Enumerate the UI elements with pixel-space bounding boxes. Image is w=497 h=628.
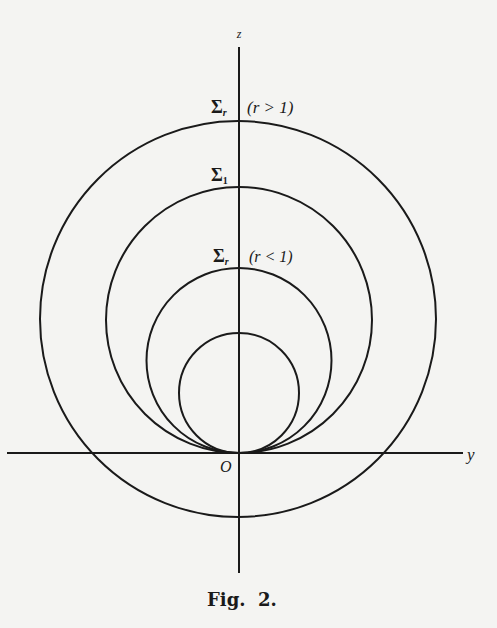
figure-2-diagram: z y O Σr (r > 1) Σ1 Σr (r < 1) Fig. 2.	[0, 0, 497, 628]
label-sigma-r-inner: Σr	[213, 246, 229, 267]
y-axis-label: y	[465, 445, 475, 464]
origin-label: O	[220, 458, 232, 475]
label-condition-r-less-1: (r < 1)	[249, 248, 293, 266]
label-sigma-r-outer: Σr	[211, 97, 227, 118]
figure-caption: Fig. 2.	[207, 589, 277, 610]
z-axis-label: z	[236, 27, 242, 41]
label-sigma-1: Σ1	[211, 165, 228, 186]
label-condition-r-greater-1: (r > 1)	[247, 98, 294, 117]
